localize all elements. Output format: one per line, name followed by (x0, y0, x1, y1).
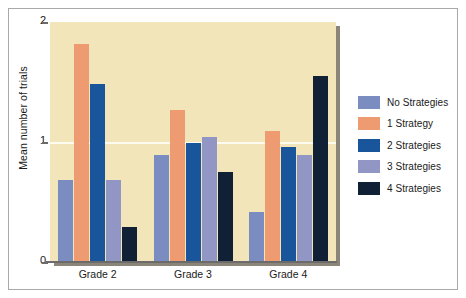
x-axis-tick-label: Grade 2 (50, 268, 145, 280)
bar (106, 180, 121, 262)
legend-label: 1 Strategy (387, 118, 433, 129)
legend-label: 3 Strategies (387, 161, 441, 172)
legend-swatch-icon (358, 182, 380, 195)
bar (218, 172, 233, 262)
bar-group-grade-4 (249, 22, 329, 262)
chart-figure: Mean number of trials 012 No Strategies1… (0, 0, 466, 298)
legend-item-no-strategies[interactable]: No Strategies (358, 93, 462, 111)
bar (154, 155, 169, 262)
legend-swatch-icon (358, 139, 380, 152)
bar (313, 76, 328, 262)
legend-label: No Strategies (387, 97, 448, 108)
bar-group-grade-2 (58, 22, 138, 262)
bar (186, 143, 201, 262)
bar (297, 155, 312, 262)
y-axis-tickmark (42, 262, 48, 264)
plot-area (50, 22, 336, 262)
y-axis-tick-0: 0 (30, 254, 46, 266)
bar (202, 137, 217, 262)
bar (122, 227, 137, 262)
x-axis-tick-label: Grade 3 (145, 268, 240, 280)
y-axis-tickmark (42, 22, 48, 24)
legend-swatch-icon (358, 96, 380, 109)
chart-legend: No Strategies1 Strategy2 Strategies3 Str… (358, 93, 462, 201)
y-axis-tick-2: 2 (30, 14, 46, 26)
x-axis-baseline (46, 261, 337, 263)
legend-item-3-strategies[interactable]: 3 Strategies (358, 158, 462, 176)
bar (170, 110, 185, 262)
bar (74, 44, 89, 262)
legend-item-1-strategy[interactable]: 1 Strategy (358, 115, 462, 133)
legend-label: 2 Strategies (387, 140, 441, 151)
plot-shadow-right (336, 26, 340, 266)
legend-item-4-strategies[interactable]: 4 Strategies (358, 179, 462, 197)
bar (249, 212, 264, 262)
bar-group-grade-3 (154, 22, 234, 262)
legend-swatch-icon (358, 117, 380, 130)
bar (281, 147, 296, 262)
bar (265, 131, 280, 262)
y-axis-tick-labels: 012 (28, 0, 46, 298)
legend-swatch-icon (358, 160, 380, 173)
bar (58, 180, 73, 262)
y-axis-tick-1: 1 (30, 134, 46, 146)
x-axis-tick-label: Grade 4 (241, 268, 336, 280)
y-axis-tickmark (42, 142, 48, 144)
legend-label: 4 Strategies (387, 183, 441, 194)
legend-item-2-strategies[interactable]: 2 Strategies (358, 136, 462, 154)
bar (90, 84, 105, 262)
